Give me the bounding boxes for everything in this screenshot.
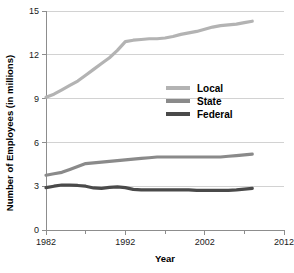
chart-legend: LocalStateFederal [166,83,233,120]
y-tick-label-6: 6 [34,138,39,148]
y-axis-title: Number of Employees (in millions) [4,55,15,211]
x-axis-title: Year [155,253,175,264]
x-tick-label-2002: 2002 [195,237,215,247]
legend-label-local: Local [197,83,223,94]
y-tick-label-3: 3 [34,181,39,191]
x-tick-label-1992: 1992 [115,237,135,247]
x-tick-label-1982: 1982 [36,237,56,247]
line-chart: 03691215 1982199220022012 LocalStateFede… [0,0,294,273]
y-tick-label-0: 0 [34,225,39,235]
legend-label-state: State [197,96,222,107]
series-line-state [46,154,252,175]
chart-canvas: 03691215 1982199220022012 LocalStateFede… [0,0,294,273]
y-axis: 03691215 [29,6,46,235]
legend-label-federal: Federal [197,109,233,120]
y-tick-label-15: 15 [29,6,39,16]
y-tick-label-9: 9 [34,94,39,104]
y-tick-label-12: 12 [29,50,39,60]
x-tick-label-2012: 2012 [274,237,294,247]
x-axis: 1982199220022012 [36,230,294,247]
